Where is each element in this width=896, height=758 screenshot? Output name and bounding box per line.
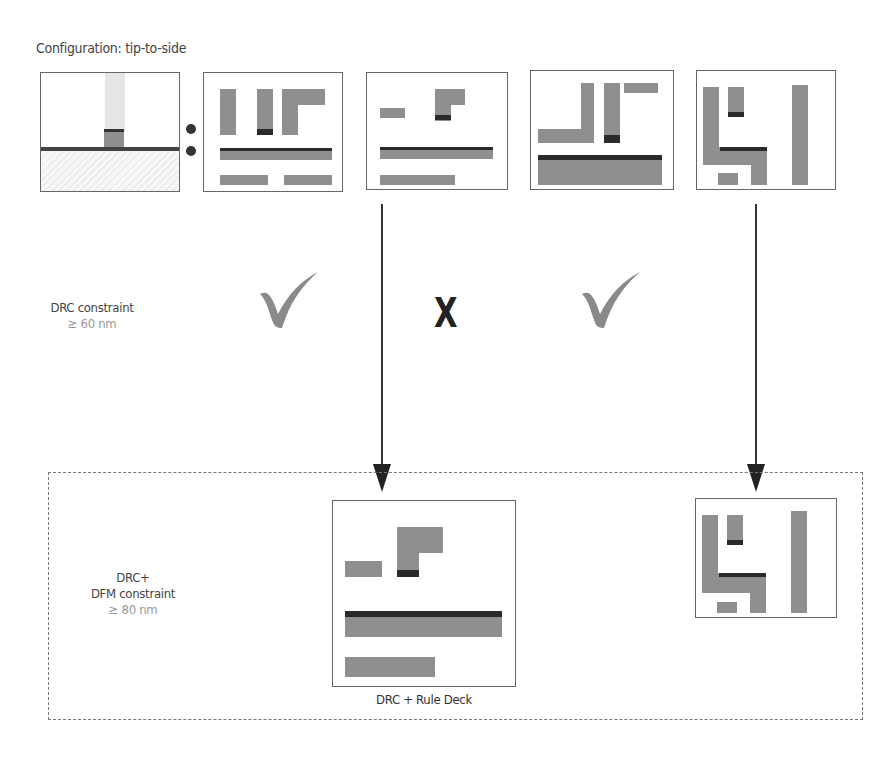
bullet-dot-icon — [186, 124, 196, 134]
dfm-constraint-line1: DRC+ — [48, 570, 218, 586]
drc-constraint-title: DRC constraint — [40, 300, 144, 316]
dfm-constraint-line2: DFM constraint — [48, 586, 218, 602]
bullet-dot-icon — [186, 146, 196, 156]
layout-panel-2 — [366, 72, 508, 190]
arrow-line-panel-2 — [381, 204, 383, 466]
layout-panel-3 — [530, 70, 674, 190]
layout-panel-4 — [696, 70, 836, 190]
fixed-layout-panel-4 — [695, 498, 837, 618]
check-icon — [580, 270, 644, 334]
dfm-constraint-value: ≥ 80 nm — [48, 602, 218, 618]
drc-constraint-label: DRC constraint ≥ 60 nm — [40, 300, 144, 332]
cross-section-panel — [40, 72, 180, 192]
layout-panel-1 — [203, 72, 343, 192]
substrate — [41, 151, 179, 191]
check-icon — [258, 270, 322, 334]
fixed-layout-panel-2 — [332, 500, 516, 687]
fail-x-icon: X — [434, 290, 458, 336]
via-column — [105, 73, 125, 131]
via-tip — [104, 129, 124, 147]
dfm-constraint-label: DRC+ DFM constraint ≥ 80 nm — [48, 570, 218, 618]
diagram-title: Configuration: tip-to-side — [36, 40, 186, 56]
arrow-line-panel-4 — [755, 204, 757, 466]
rule-deck-caption: DRC + Rule Deck — [332, 692, 516, 707]
drc-constraint-value: ≥ 60 nm — [40, 316, 144, 332]
